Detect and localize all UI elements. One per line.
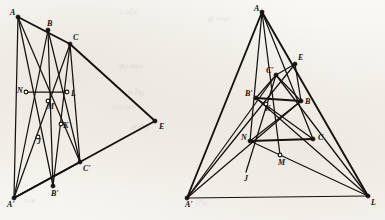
- segment-L-N: [250, 141, 368, 196]
- label-M: M: [46, 102, 55, 111]
- vertex-B: [299, 99, 303, 103]
- segment-Aprime-E: [187, 64, 295, 198]
- label-A: A: [9, 8, 16, 17]
- label-Cprime: C': [83, 164, 91, 173]
- segment-Cprime-E: [276, 64, 295, 75]
- label-K: K: [264, 104, 271, 113]
- right-configuration: AEC'B'KBNCMJA'L: [184, 4, 376, 209]
- label-Bprime: B': [50, 189, 59, 198]
- vertex-N: [248, 139, 252, 143]
- label-C: C: [73, 33, 79, 42]
- segment-Aprime-L: [187, 196, 368, 198]
- vertex-A: [260, 10, 264, 14]
- vertex-B: [46, 28, 50, 32]
- label-A: A: [253, 4, 260, 13]
- label-Aprime: A': [6, 200, 15, 209]
- segment-A-L: [262, 12, 368, 196]
- vertex-L: [366, 194, 370, 198]
- vertex-Bprime: [254, 96, 258, 100]
- vertex-Cprime: [78, 160, 82, 164]
- label-B: B: [46, 19, 53, 28]
- vertex-E: [153, 119, 157, 123]
- segment-Aprime-Cprime: [187, 75, 276, 198]
- left-configuration: ABCENMLKJA'B'C': [6, 8, 164, 209]
- segment-C-E: [70, 44, 155, 121]
- geometry-figure: ABCENMLKJA'B'C' AEC'B'KBNCMJA'L: [0, 0, 385, 220]
- label-N: N: [16, 86, 24, 95]
- segment-B-Aprime: [14, 30, 48, 198]
- label-L: L: [70, 89, 76, 98]
- vertex-C: [311, 137, 315, 141]
- segment-C-Cprime: [70, 44, 80, 162]
- segment-A-Aprime: [14, 17, 18, 198]
- label-J: J: [243, 174, 249, 183]
- segment-Aprime-B: [187, 101, 301, 198]
- vertex-N: [24, 90, 28, 94]
- label-K: K: [62, 121, 69, 130]
- label-Cprime: C': [266, 66, 274, 75]
- vertex-Cprime: [274, 73, 278, 77]
- segment-C-Bprime: [53, 44, 70, 186]
- segment-group: [187, 12, 368, 198]
- vertex-M: [278, 153, 282, 157]
- label-Bprime: B': [244, 89, 253, 98]
- segment-Aprime-Cprime: [14, 162, 80, 198]
- segment-C-Aprime: [14, 44, 70, 198]
- segment-A-C: [18, 17, 70, 44]
- segment-N-C: [250, 139, 313, 141]
- figure-page: अनुवादगणित कीसरल रेखात्रिभुजबिंदु कोसमान…: [0, 0, 385, 220]
- label-B: B: [304, 97, 311, 106]
- label-Aprime: A': [184, 200, 193, 209]
- label-C: C: [318, 133, 324, 142]
- label-E: E: [158, 122, 164, 131]
- vertex-L: [65, 90, 69, 94]
- segment-L-Bprime: [256, 98, 368, 196]
- vertex-A: [16, 15, 20, 19]
- segment-A-N: [250, 12, 262, 141]
- label-L: L: [370, 198, 376, 207]
- label-M: M: [277, 158, 286, 167]
- segment-A-Aprime: [187, 12, 262, 198]
- vertex-Bprime: [51, 184, 55, 188]
- vertex-C: [68, 42, 72, 46]
- vertex-E: [293, 62, 297, 66]
- label-E: E: [297, 53, 303, 62]
- label-J: J: [36, 137, 42, 146]
- label-N: N: [240, 133, 248, 142]
